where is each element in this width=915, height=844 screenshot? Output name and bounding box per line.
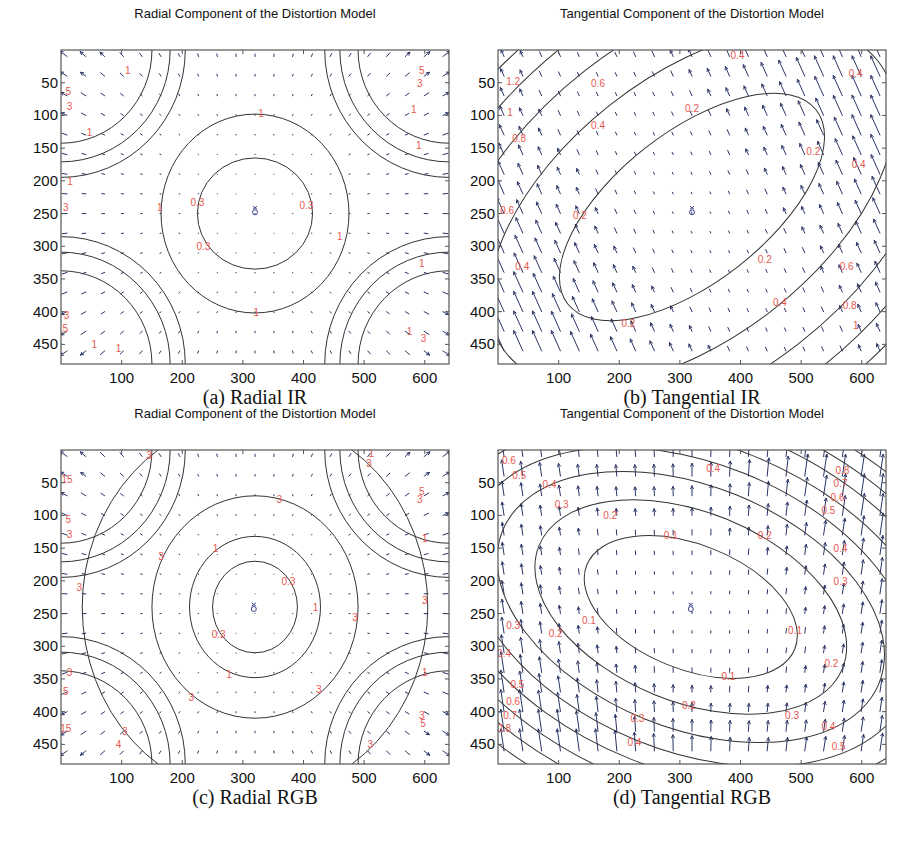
y-tick-label: 450 [33, 335, 58, 352]
y-tick-label: 250 [470, 605, 495, 622]
y-tick-label: 100 [33, 106, 58, 123]
svg-text:0.3: 0.3 [212, 629, 226, 640]
y-tick-label: 250 [33, 205, 58, 222]
chart-svg: Radial Component of the Distortion Model… [0, 0, 470, 400]
svg-text:1: 1 [258, 108, 264, 119]
svg-text:0.4: 0.4 [515, 261, 529, 272]
y-tick-label: 400 [470, 703, 495, 720]
x-tick-label: 300 [667, 369, 692, 386]
svg-text:3: 3 [316, 684, 322, 695]
y-tick-label: 100 [470, 506, 495, 523]
y-tick-label: 400 [33, 703, 58, 720]
svg-text:0.7: 0.7 [834, 478, 848, 489]
x-tick-label: 100 [109, 769, 134, 786]
svg-text:0.4: 0.4 [849, 68, 863, 79]
y-tick-label: 350 [470, 270, 495, 287]
contour-labels: 0.30.30.3111115311335115311113 [62, 65, 426, 354]
x-tick-label: 200 [170, 769, 195, 786]
y-tick-label: 50 [41, 474, 58, 491]
y-tick-label: 250 [33, 605, 58, 622]
y-tick-label: 100 [33, 506, 58, 523]
svg-text:0.4: 0.4 [627, 737, 641, 748]
svg-text:0.2: 0.2 [685, 103, 699, 114]
svg-text:1: 1 [313, 602, 319, 613]
svg-text:3: 3 [122, 726, 128, 737]
svg-text:0.1: 0.1 [582, 615, 596, 626]
svg-text:0.3: 0.3 [190, 197, 204, 208]
svg-text:0.6: 0.6 [506, 696, 520, 707]
svg-text:5: 5 [65, 86, 71, 97]
chart-panel-tangential-ir: Tangential Component of the Distortion M… [437, 0, 907, 400]
svg-text:0.8: 0.8 [843, 300, 857, 311]
svg-text:0.7: 0.7 [503, 710, 517, 721]
x-tick-label: 200 [607, 769, 632, 786]
svg-text:0.4: 0.4 [497, 648, 511, 659]
svg-text:0.2: 0.2 [573, 210, 587, 221]
chart-panel-radial-rgb: Radial Component of the Distortion Model… [0, 400, 470, 800]
y-tick-label: 50 [41, 74, 58, 91]
svg-text:5: 5 [62, 323, 68, 334]
svg-text:3: 3 [67, 529, 73, 540]
svg-text:1: 1 [422, 667, 428, 678]
chart-title: Radial Component of the Distortion Model [134, 6, 375, 21]
y-tick-label: 50 [478, 474, 495, 491]
x-tick-label: 500 [352, 369, 377, 386]
svg-text:1: 1 [213, 543, 219, 554]
svg-text:1: 1 [416, 140, 422, 151]
x-tick-label: 200 [170, 369, 195, 386]
x-tick-label: 300 [230, 369, 255, 386]
x-tick-label: 600 [412, 769, 437, 786]
x-tick-label: 600 [849, 369, 874, 386]
svg-text:0.8: 0.8 [497, 723, 511, 734]
y-tick-label: 300 [33, 237, 58, 254]
svg-text:0.6: 0.6 [840, 261, 854, 272]
svg-text:1: 1 [507, 107, 513, 118]
caption-tangential-rgb: (d) Tangential RGB [492, 786, 892, 809]
principal-point-icon [251, 603, 256, 612]
svg-text:0.2: 0.2 [806, 146, 820, 157]
principal-point-icon [688, 603, 693, 612]
svg-text:3: 3 [67, 101, 73, 112]
x-tick-label: 400 [728, 369, 753, 386]
y-tick-label: 150 [470, 139, 495, 156]
svg-text:0.6: 0.6 [502, 455, 516, 466]
svg-text:5: 5 [63, 686, 69, 697]
svg-text:0.4: 0.4 [821, 721, 835, 732]
y-tick-label: 400 [33, 303, 58, 320]
svg-text:4: 4 [116, 739, 122, 750]
svg-text:1: 1 [253, 307, 259, 318]
svg-text:1: 1 [419, 258, 425, 269]
contour-labels: 0.20.20.20.20.20.40.40.40.40.40.40.60.60… [500, 50, 866, 331]
svg-text:0.8: 0.8 [835, 465, 849, 476]
svg-text:1: 1 [337, 231, 343, 242]
svg-text:1: 1 [92, 339, 98, 350]
svg-text:0.2: 0.2 [621, 318, 635, 329]
x-tick-label: 500 [789, 769, 814, 786]
svg-text:1: 1 [226, 669, 232, 680]
svg-text:0.1: 0.1 [664, 530, 678, 541]
svg-text:5: 5 [65, 514, 71, 525]
svg-text:3: 3 [76, 582, 82, 593]
y-tick-label: 150 [470, 539, 495, 556]
svg-text:0.5: 0.5 [821, 505, 835, 516]
svg-text:0.1: 0.1 [721, 671, 735, 682]
chart-title: Tangential Component of the Distortion M… [560, 406, 824, 421]
svg-text:0.4: 0.4 [591, 120, 605, 131]
svg-text:0.3: 0.3 [834, 576, 848, 587]
svg-text:1: 1 [853, 320, 859, 331]
y-tick-label: 50 [478, 74, 495, 91]
svg-text:0.1: 0.1 [788, 625, 802, 636]
chart-title: Radial Component of the Distortion Model [134, 406, 375, 421]
y-tick-label: 200 [33, 172, 58, 189]
svg-text:3: 3 [422, 595, 428, 606]
svg-text:15: 15 [60, 723, 72, 734]
svg-text:3: 3 [189, 692, 195, 703]
chart-svg: Tangential Component of the Distortion M… [437, 0, 907, 400]
x-tick-label: 100 [109, 369, 134, 386]
svg-text:3: 3 [158, 551, 164, 562]
svg-text:1: 1 [407, 326, 413, 337]
svg-text:0.6: 0.6 [831, 492, 845, 503]
svg-text:0.2: 0.2 [758, 530, 772, 541]
svg-text:1.2: 1.2 [506, 76, 520, 87]
y-tick-label: 200 [470, 172, 495, 189]
